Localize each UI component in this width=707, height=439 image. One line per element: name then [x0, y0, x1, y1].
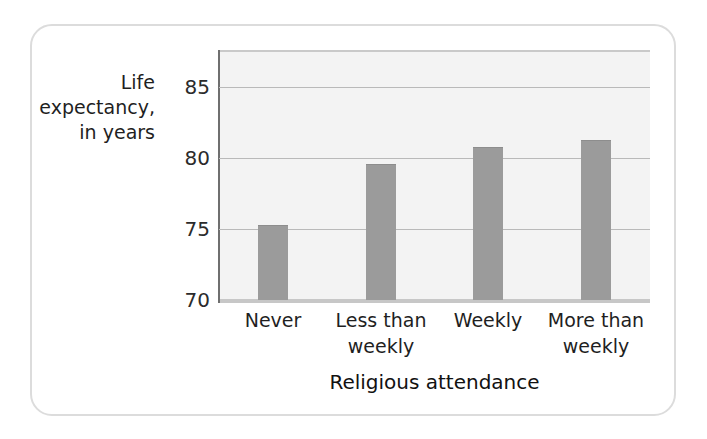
y-tick-label-70: 70 — [170, 290, 210, 310]
x-tick-label-more-than-weekly-line-2: weekly — [516, 334, 676, 360]
bar-less-than-weekly[interactable] — [366, 164, 396, 300]
gridline-85 — [219, 87, 650, 88]
y-tick-label-80: 80 — [170, 148, 210, 168]
bar-more-than-weekly[interactable] — [581, 140, 611, 300]
x-tick-label-more-than-weekly: More than weekly — [516, 308, 676, 359]
y-tick-label-85: 85 — [170, 77, 210, 97]
y-tick-label-75: 75 — [170, 219, 210, 239]
x-tick-label-more-than-weekly-line-1: More than — [516, 308, 676, 334]
bar-chart: Life expectancy, in years 85 80 75 70 Ne… — [0, 0, 707, 439]
y-axis-title: Life expectancy, in years — [20, 70, 155, 145]
y-axis-title-line-2: expectancy, — [20, 95, 155, 120]
y-axis-title-line-1: Life — [20, 70, 155, 95]
y-axis-title-line-3: in years — [20, 120, 155, 145]
x-axis-title: Religious attendance — [219, 370, 650, 394]
x-tick-label-less-than-weekly-line-2: weekly — [301, 334, 461, 360]
bar-never[interactable] — [258, 225, 288, 300]
x-tick-labels: Never Less than weekly Weekly More than … — [219, 308, 650, 372]
y-tick-labels: 85 80 75 70 — [160, 0, 210, 439]
bar-weekly[interactable] — [473, 147, 503, 300]
